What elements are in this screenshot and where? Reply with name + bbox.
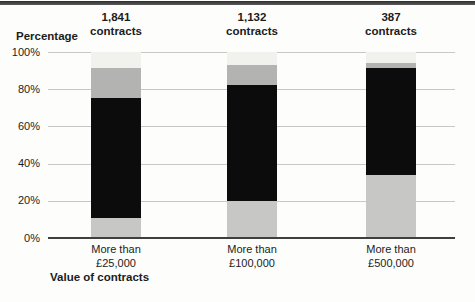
- bar-segment-bottom-light-grey: [366, 175, 416, 238]
- y-tick-label-60: 60%: [0, 120, 40, 133]
- top-rule-divider: [0, 1, 475, 5]
- y-tick-label-40: 40%: [0, 157, 40, 170]
- y-tick-label-0: 0%: [0, 232, 40, 245]
- bar-header-line: 1,841: [90, 10, 142, 24]
- y-tick-label-80: 80%: [0, 83, 40, 96]
- stacked-bar-2: [227, 52, 277, 238]
- x-axis-title: Value of contracts: [50, 271, 149, 283]
- bar-header-line: contracts: [226, 24, 278, 38]
- bar-header-line: contracts: [90, 24, 142, 38]
- stacked-bar-1: [91, 52, 141, 238]
- plot-area: [48, 52, 455, 238]
- bar-segment-black: [91, 98, 141, 218]
- bar-header-2: 1,132contracts: [226, 10, 278, 38]
- category-label-1: More than£25,000: [91, 243, 141, 270]
- bar-header-3: 387contracts: [365, 10, 417, 38]
- category-label-line: More than: [91, 243, 141, 257]
- bar-segment-mid-grey: [227, 65, 277, 85]
- bar-header-1: 1,841contracts: [90, 10, 142, 38]
- bar-segment-pale-grey: [227, 52, 277, 65]
- stacked-bar-3: [366, 52, 416, 238]
- bar-segment-black: [227, 85, 277, 200]
- category-label-line: More than: [366, 243, 416, 257]
- bar-segment-bottom-light-grey: [91, 218, 141, 238]
- bar-segment-bottom-light-grey: [227, 201, 277, 238]
- y-tick-label-20: 20%: [0, 194, 40, 207]
- bar-segment-pale-grey: [366, 52, 416, 63]
- y-tick-label-100: 100%: [0, 46, 40, 59]
- category-label-2: More than£100,000: [227, 243, 277, 270]
- category-label-line: £100,000: [227, 257, 277, 271]
- bar-header-line: 387: [365, 10, 417, 24]
- category-label-line: £25,000: [91, 257, 141, 271]
- y-axis-title: Percentage: [16, 30, 78, 42]
- bar-segment-pale-grey: [91, 52, 141, 68]
- category-label-3: More than£500,000: [366, 243, 416, 270]
- bar-header-line: 1,132: [226, 10, 278, 24]
- bar-segment-black: [366, 68, 416, 175]
- category-label-line: £500,000: [366, 257, 416, 271]
- chart-figure: Percentage 1,841contracts1,132contracts3…: [0, 0, 475, 302]
- bar-header-line: contracts: [365, 24, 417, 38]
- bar-segment-mid-grey: [91, 68, 141, 98]
- category-label-line: More than: [227, 243, 277, 257]
- x-axis-line: [48, 237, 455, 239]
